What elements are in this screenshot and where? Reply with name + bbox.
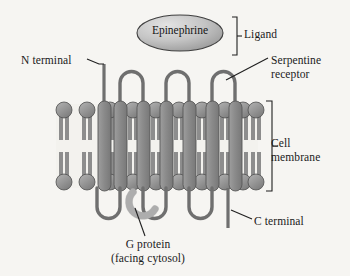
ligand-name-label: Epinephrine bbox=[137, 24, 223, 36]
helix-3 bbox=[137, 101, 150, 191]
figure-canvas: Epinephrine Ligand N terminal Serpentine… bbox=[0, 0, 350, 276]
c-terminal-leader bbox=[231, 210, 252, 219]
g-protein-label-line2: (facing cytosol) bbox=[111, 252, 185, 264]
n-terminal-leader bbox=[87, 59, 104, 64]
g-protein-label-line1: G protein bbox=[126, 238, 171, 250]
extracellular-loop-3 bbox=[212, 72, 235, 105]
c-terminal-label: C terminal bbox=[254, 215, 304, 228]
helix-5 bbox=[183, 101, 196, 191]
ligand-label: Ligand bbox=[244, 28, 277, 41]
intracellular-loop-3 bbox=[189, 188, 212, 219]
intracellular-loop-1 bbox=[97, 188, 120, 219]
ligand-bracket bbox=[232, 17, 237, 55]
cell-membrane-label: Cell membrane bbox=[271, 137, 345, 164]
g-protein-label: G protein (facing cytosol) bbox=[78, 238, 218, 265]
serpentine-receptor-leader bbox=[226, 58, 268, 80]
extracellular-loop-1 bbox=[120, 72, 143, 105]
helix-2 bbox=[114, 101, 127, 191]
extracellular-loops bbox=[120, 72, 235, 105]
helix-6 bbox=[206, 101, 219, 191]
helix-1 bbox=[98, 101, 111, 191]
helix-4 bbox=[160, 101, 173, 191]
n-terminal-label: N terminal bbox=[21, 54, 72, 67]
extracellular-loop-2 bbox=[166, 72, 189, 104]
serpentine-receptor-label-line2: receptor bbox=[271, 68, 309, 80]
serpentine-receptor-label: Serpentine receptor bbox=[271, 54, 349, 81]
serpentine-receptor-label-line1: Serpentine bbox=[271, 54, 321, 66]
cell-membrane-label-line1: Cell bbox=[271, 137, 291, 149]
cell-membrane-label-line2: membrane bbox=[271, 151, 320, 163]
helix-7 bbox=[229, 101, 242, 191]
